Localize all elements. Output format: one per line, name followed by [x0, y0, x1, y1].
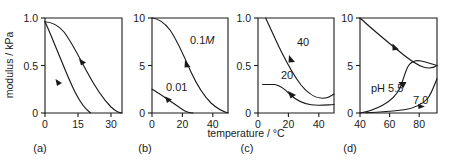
panel-a-xticklabel-15: 15	[72, 118, 84, 130]
panel-d-annotation-pH-5.5: pH 5.5	[371, 82, 403, 94]
panel-b-xticklabel-40: 40	[207, 118, 219, 130]
panel-b-curve-0.1M	[152, 18, 228, 113]
panel-c-xticklabel-40: 40	[313, 118, 325, 130]
panel-c-label: (c)	[241, 142, 254, 154]
panel-a-yticklabel-0.5: 0.5	[23, 60, 38, 72]
panel-a-upper-curve	[45, 22, 122, 113]
panel-b-frame	[152, 18, 228, 113]
x-axis-title: temperature / °C	[207, 127, 285, 139]
panel-a-label: (a)	[33, 142, 46, 154]
panel-c-arrow-20-icon	[288, 91, 296, 99]
panel-b-annotation-0.1M-text: 0.1M	[190, 34, 215, 46]
panel-a-lower-arrow-icon	[56, 79, 63, 86]
panel-d-descending-arrow-icon	[393, 44, 400, 51]
panel-d-descending-curve	[360, 18, 437, 68]
panel-b-yticklabel-5: 5	[139, 60, 145, 72]
panel-c-xticklabel-0: 0	[255, 118, 261, 130]
panel-c-curve-20	[263, 85, 334, 106]
panel-d: 10 5 0 40 60 80 pH 5.5 7.0 (d)	[341, 12, 437, 154]
panel-b-annotation-0.01: 0.01	[166, 81, 187, 93]
panel-a-yticklabel-1.0: 1.0	[23, 12, 38, 24]
panel-b-yticklabel-10: 10	[133, 12, 145, 24]
panel-c-annotation-20: 20	[281, 69, 293, 81]
panel-d-xticklabel-80: 80	[413, 118, 425, 130]
panel-d-yticklabel-10: 10	[341, 12, 353, 24]
multi-panel-plot: modulus / kPa temperature / °C 1.0 0.5 0…	[0, 0, 450, 160]
panel-c-xticklabel-20: 20	[283, 118, 295, 130]
panel-b-xticklabel-0: 0	[149, 118, 155, 130]
panel-d-xticklabel-40: 40	[354, 118, 366, 130]
panel-b-arrow-0.1M-icon	[185, 60, 191, 68]
y-axis-title: modulus / kPa	[3, 32, 15, 99]
panel-d-annotation-7.0: 7.0	[413, 94, 428, 106]
panel-a-upper-arrow-icon	[79, 59, 86, 66]
panel-b-yticklabel-0: 0	[139, 107, 145, 119]
panel-a-lower-curve	[45, 22, 91, 113]
panel-b-annotation-0.1M: 0.1M	[190, 34, 215, 46]
panel-c-yticklabel-1.0: 1.0	[236, 12, 251, 24]
panel-d-yticklabel-0: 0	[347, 107, 353, 119]
panel-d-label: (d)	[343, 142, 356, 154]
panel-a-xticklabel-0: 0	[42, 118, 48, 130]
panel-c-yticklabel-0.5: 0.5	[236, 60, 251, 72]
figure-container: modulus / kPa temperature / °C 1.0 0.5 0…	[0, 0, 450, 160]
panel-a-yticklabel-0: 0	[32, 107, 38, 119]
panel-c-annotation-40: 40	[297, 36, 309, 48]
panel-d-xticklabel-60: 60	[384, 118, 396, 130]
panel-c-curve-40	[266, 18, 334, 98]
panel-b-xticklabel-20: 20	[177, 118, 189, 130]
panel-b-label: (b)	[138, 142, 151, 154]
panel-a: 1.0 0.5 0 0 15 30 (a)	[23, 12, 122, 154]
panel-a-xticklabel-30: 30	[105, 118, 117, 130]
panel-c-yticklabel-0: 0	[245, 107, 251, 119]
panel-d-yticklabel-5: 5	[347, 60, 353, 72]
panel-c-arrow-40-icon	[289, 55, 296, 63]
